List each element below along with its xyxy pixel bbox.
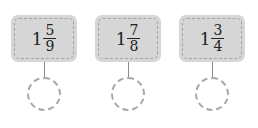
connector-line	[128, 62, 129, 77]
whole-part: 1	[200, 29, 211, 49]
mixed-number-card-2: 1 7 8	[95, 15, 161, 62]
answer-circle-3[interactable]	[195, 77, 229, 111]
fraction: 7 8	[127, 23, 140, 54]
connector-line	[44, 62, 45, 77]
fraction: 5 9	[43, 23, 56, 54]
mixed-number-card-1: 1 5 9	[11, 15, 77, 62]
answer-circle-1[interactable]	[27, 77, 61, 111]
whole-part: 1	[116, 29, 127, 49]
denominator: 8	[127, 39, 140, 54]
mixed-number: 1 3 4	[179, 15, 245, 62]
denominator: 9	[43, 39, 56, 54]
numerator: 7	[127, 23, 140, 39]
mixed-number: 1 5 9	[11, 15, 77, 62]
fraction: 3 4	[211, 23, 224, 54]
mixed-number: 1 7 8	[95, 15, 161, 62]
denominator: 4	[211, 39, 224, 54]
whole-part: 1	[32, 29, 43, 49]
numerator: 5	[43, 23, 56, 39]
connector-line	[212, 62, 213, 77]
mixed-number-card-3: 1 3 4	[179, 15, 245, 62]
answer-circle-2[interactable]	[111, 77, 145, 111]
numerator: 3	[211, 23, 224, 39]
